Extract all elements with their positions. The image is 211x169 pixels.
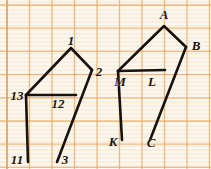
geometry-figure: 121312113ABMLKC [0,0,211,169]
segment-B-C [150,47,186,140]
figure-strokes [0,0,211,169]
vertex-label-A: A [160,8,169,21]
path-13-1-2 [26,48,92,95]
vertex-label-one: 1 [68,34,75,47]
vertex-label-thirteen: 13 [11,89,24,102]
vertex-label-B: B [192,39,201,52]
vertex-label-eleven: 11 [11,153,23,166]
vertex-label-twelve: 12 [52,97,65,110]
segment-13-11 [26,95,28,162]
vertex-label-two: 2 [96,65,103,78]
segment-2-3 [57,70,92,162]
vertex-label-K: K [109,135,118,148]
path-M-A-B [118,26,186,71]
vertex-label-C: C [147,136,156,149]
vertex-label-three: 3 [62,153,69,166]
segment-M-L [118,70,165,71]
vertex-label-L: L [148,75,156,88]
vertex-label-M: M [114,75,126,88]
